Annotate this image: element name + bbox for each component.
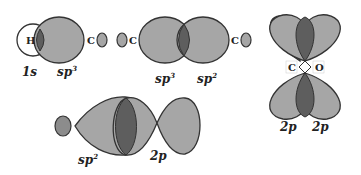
panel-c-o-pi-bond: C O 2p 2p (270, 15, 341, 134)
panel-sp2-2p-overlap: sp2 2p (55, 97, 200, 167)
c-small-lobe-right (241, 33, 251, 47)
2p-lobe-right (157, 98, 200, 154)
label-1s: 1s (22, 65, 37, 79)
center-diamond (299, 61, 311, 73)
orbital-overlap-diagram: H C 1s sp3 C C sp3 sp2 C O 2p 2p (0, 0, 361, 175)
panel-h-c-sigma-bond: H C 1s sp3 (17, 17, 107, 79)
c-small-lobe (97, 33, 107, 47)
atom-c: C (288, 62, 296, 73)
label-sp2: sp2 (78, 152, 98, 167)
label-sp3: sp3 (155, 71, 175, 86)
label-sp2: sp2 (197, 71, 217, 86)
panel-c-c-sigma-bond: C C sp3 sp2 (117, 17, 251, 86)
atom-o: O (315, 62, 324, 73)
atom-c-left: C (129, 35, 137, 46)
atom-c-right: C (231, 35, 239, 46)
small-back-lobe (55, 116, 71, 136)
label-2p: 2p (149, 149, 167, 163)
label-sp3: sp3 (57, 64, 77, 79)
atom-h: H (26, 35, 35, 46)
label-2p-c: 2p (279, 120, 297, 134)
label-2p-o: 2p (311, 120, 329, 134)
atom-c: C (87, 35, 95, 46)
c-small-lobe-left (117, 33, 127, 47)
